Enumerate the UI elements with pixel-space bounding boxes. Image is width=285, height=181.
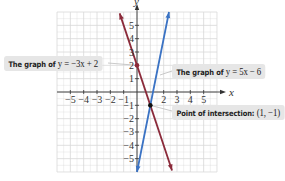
x-tick-label: 2 <box>161 94 166 105</box>
x-axis-label: x <box>228 86 234 98</box>
y-tick-label: −2 <box>123 113 134 124</box>
y-tick-label: −1 <box>123 100 134 111</box>
x-tick-label: −4 <box>78 94 89 105</box>
x-tick-label: −3 <box>92 94 103 105</box>
y-tick-label: 1 <box>129 73 134 84</box>
point-y-intercept <box>135 63 140 68</box>
y-tick-label: −4 <box>123 140 134 151</box>
callout-intersection-prefix: Point of intersection: <box>176 109 254 118</box>
callout-intersection-math: (1, −1) <box>257 107 280 118</box>
chart: xy−5−4−3−2−12345−5−4−3−2−112345 <box>0 0 285 181</box>
callout-red-math: y = −3x + 2 <box>58 58 98 69</box>
y-tick-label: 4 <box>129 33 134 44</box>
y-tick-label: −5 <box>123 153 134 164</box>
callout-intersection: Point of intersection: (1, −1) <box>172 105 284 120</box>
x-axis-arrow <box>220 90 226 94</box>
y-tick-label: 3 <box>129 47 134 58</box>
y-tick-label: −3 <box>123 126 134 137</box>
point-intersection <box>148 103 153 108</box>
callout-red-prefix: The graph of <box>8 60 55 69</box>
x-tick-label: 5 <box>201 94 206 105</box>
callout-blue-line: The graph of y = 5x − 6 <box>172 64 266 79</box>
callout-blue-math: y = 5x − 6 <box>226 66 261 77</box>
y-tick-label: 5 <box>129 20 134 31</box>
leader-intersection <box>150 105 172 111</box>
x-tick-label: 4 <box>188 94 193 105</box>
x-tick-label: −2 <box>105 94 116 105</box>
y-tick-label: 2 <box>129 60 134 71</box>
y-axis-label: y <box>133 0 139 7</box>
x-tick-label: −5 <box>65 94 76 105</box>
callout-blue-prefix: The graph of <box>176 68 223 77</box>
x-tick-label: 3 <box>174 94 179 105</box>
callout-red-line: The graph of y = −3x + 2 <box>4 56 102 71</box>
